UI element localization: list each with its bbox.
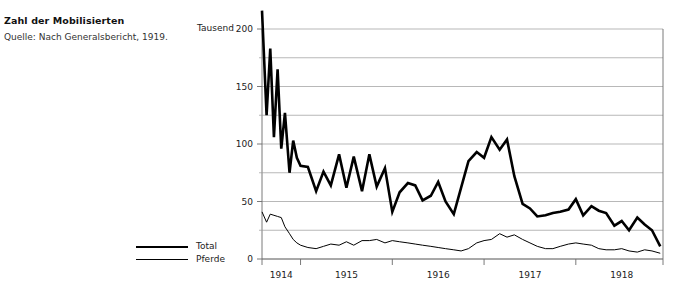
x-tick-label: 1916 <box>427 270 450 280</box>
x-tick-label: 1917 <box>518 270 541 280</box>
series-line-pferde <box>262 212 660 253</box>
y-tick-label: 50 <box>242 197 254 207</box>
series-line-total <box>262 11 660 247</box>
x-tick-label: 1915 <box>335 270 358 280</box>
y-tick-label: 100 <box>236 139 253 149</box>
x-tick-labels-group: 19141915191619171918 <box>270 270 634 280</box>
y-tick-label: 150 <box>236 82 253 92</box>
line-chart-svg: 050100150200 19141915191619171918 <box>0 0 691 294</box>
y-tick-label: 200 <box>236 24 253 34</box>
chart-area: Tausend 050100150200 1914191519161917191… <box>0 0 691 294</box>
y-tick-labels-group: 050100150200 <box>236 24 253 264</box>
chart-page: Zahl der Mobilisierten Quelle: Nach Gene… <box>0 0 691 294</box>
gridlines-group <box>262 29 663 259</box>
x-axis-group <box>262 29 663 265</box>
x-tick-label: 1914 <box>270 270 293 280</box>
y-tick-label: 0 <box>247 254 253 264</box>
x-tick-label: 1918 <box>610 270 633 280</box>
